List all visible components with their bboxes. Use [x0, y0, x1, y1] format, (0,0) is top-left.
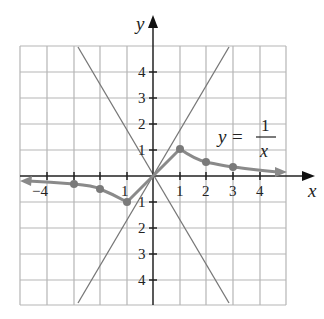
svg-text:1: 1: [121, 183, 129, 199]
svg-text:y: y: [216, 126, 227, 147]
svg-text:=: =: [232, 126, 243, 147]
svg-text:2: 2: [138, 116, 146, 132]
coordinate-plane: −4 1 1 2 3 4 4 3 2 1 1 2 3 4 y x y = 1 x: [0, 0, 324, 319]
curve-left-arrow-icon: [20, 176, 32, 186]
svg-text:3: 3: [138, 246, 146, 262]
graph-figure: −4 1 1 2 3 4 4 3 2 1 1 2 3 4 y x y = 1 x: [0, 0, 324, 319]
svg-text:1: 1: [138, 194, 146, 210]
svg-text:4: 4: [256, 183, 264, 199]
svg-text:x: x: [259, 141, 268, 161]
svg-text:1: 1: [261, 116, 270, 135]
svg-text:4: 4: [138, 272, 146, 288]
svg-text:4: 4: [138, 64, 146, 80]
svg-text:2: 2: [138, 220, 146, 236]
svg-text:3: 3: [229, 183, 237, 199]
equation-label: y = 1 x: [216, 116, 276, 161]
y-axis-arrow-icon: [148, 15, 158, 28]
svg-text:1: 1: [138, 142, 146, 158]
y-axis-label: y: [134, 13, 145, 34]
svg-text:3: 3: [138, 90, 146, 106]
svg-text:1: 1: [176, 183, 184, 199]
svg-text:−4: −4: [32, 183, 48, 199]
svg-text:2: 2: [202, 183, 210, 199]
x-axis-label: x: [307, 180, 317, 201]
